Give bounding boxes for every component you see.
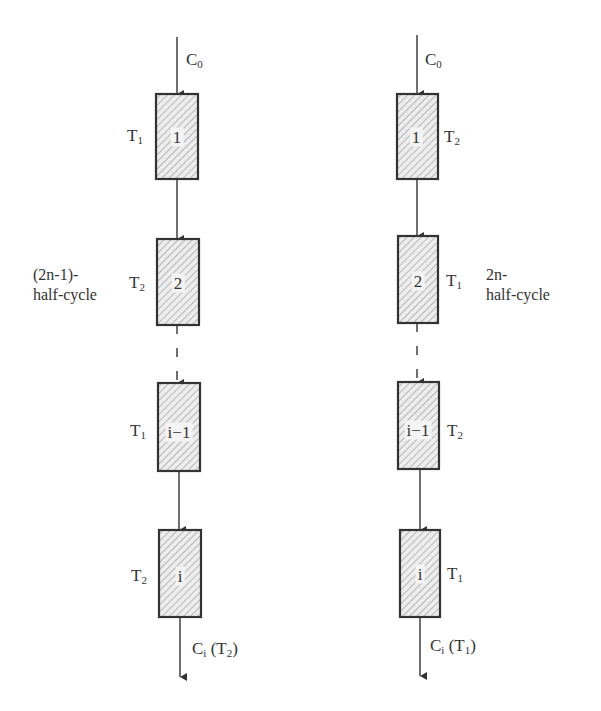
subscript: 2 xyxy=(457,429,463,441)
subscript: i xyxy=(441,644,444,656)
temp-symbol: T xyxy=(127,126,137,145)
subscript: 2 xyxy=(227,647,233,659)
right-stage-i-temp: T1 xyxy=(447,565,463,584)
right-input-label: C0 xyxy=(425,51,442,70)
right-stage-1-temp: T2 xyxy=(444,128,460,147)
right-stage-2-temp: T1 xyxy=(446,272,462,291)
left-stage-1-temp: T1 xyxy=(127,127,143,146)
subscript: 1 xyxy=(137,134,143,146)
left-output-label: Ci (T2) xyxy=(192,640,238,659)
concentration-symbol: C xyxy=(425,50,436,69)
temp-symbol: T xyxy=(444,127,454,146)
subscript: 0 xyxy=(197,58,203,70)
right-stage-i-name: i xyxy=(416,565,425,584)
right-phase-label: 2n- half-cycle xyxy=(486,265,550,305)
temp-symbol: T xyxy=(446,271,456,290)
concentration-symbol: C xyxy=(186,50,197,69)
diagram-canvas xyxy=(0,0,601,711)
left-stage-i-name: i xyxy=(176,567,185,586)
subscript: 1 xyxy=(456,279,462,291)
phase-label-line1: 2n- xyxy=(486,265,550,285)
phase-label-line1: (2n-1)- xyxy=(33,265,97,285)
left-stage-i-minus-1-temp: T1 xyxy=(130,422,146,441)
left-stage-i-temp: T2 xyxy=(131,567,147,586)
phase-label-line2: half-cycle xyxy=(33,285,97,305)
temp-symbol: T xyxy=(131,566,141,585)
temp-symbol: T xyxy=(130,421,140,440)
right-stage-i-minus-1-name: i−1 xyxy=(405,421,432,440)
left-stage-2-temp: T2 xyxy=(129,274,145,293)
subscript: 2 xyxy=(454,135,460,147)
left-stage-i-minus-1-name: i−1 xyxy=(166,423,193,442)
subscript: 2 xyxy=(139,281,145,293)
temp-symbol: T xyxy=(454,636,464,655)
right-output-label: Ci (T1) xyxy=(430,637,476,656)
left-stage-2-name: 2 xyxy=(172,274,185,293)
concentration-symbol: C xyxy=(192,639,203,658)
subscript: 1 xyxy=(465,644,471,656)
left-phase-label: (2n-1)- half-cycle xyxy=(33,265,97,305)
subscript: 1 xyxy=(140,429,146,441)
phase-label-line2: half-cycle xyxy=(486,285,550,305)
subscript: 0 xyxy=(436,58,442,70)
right-stage-i-minus-1-temp: T2 xyxy=(447,422,463,441)
temp-symbol: T xyxy=(447,421,457,440)
temp-symbol: T xyxy=(129,273,139,292)
left-input-label: C0 xyxy=(186,51,203,70)
temp-symbol: T xyxy=(216,639,226,658)
temp-symbol: T xyxy=(447,564,457,583)
concentration-symbol: C xyxy=(430,636,441,655)
left-stage-1-name: 1 xyxy=(171,128,184,147)
subscript: 2 xyxy=(141,574,147,586)
subscript: 1 xyxy=(457,572,463,584)
right-stage-2-name: 2 xyxy=(412,272,425,291)
subscript: i xyxy=(203,647,206,659)
right-stage-1-name: 1 xyxy=(410,128,423,147)
